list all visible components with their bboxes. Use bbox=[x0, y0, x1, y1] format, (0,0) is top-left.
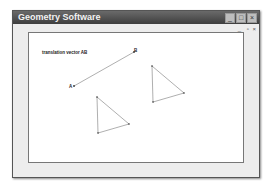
geometry-drawing bbox=[0, 0, 268, 190]
label-b: B bbox=[134, 48, 137, 53]
triangle-translated[interactable] bbox=[152, 66, 184, 102]
label-a: A bbox=[69, 84, 72, 89]
point-a[interactable] bbox=[73, 85, 75, 87]
triangle-original[interactable] bbox=[97, 97, 129, 133]
caption-label: translation vector AB bbox=[42, 50, 87, 55]
vector-ab[interactable] bbox=[74, 52, 134, 86]
points bbox=[73, 51, 185, 134]
